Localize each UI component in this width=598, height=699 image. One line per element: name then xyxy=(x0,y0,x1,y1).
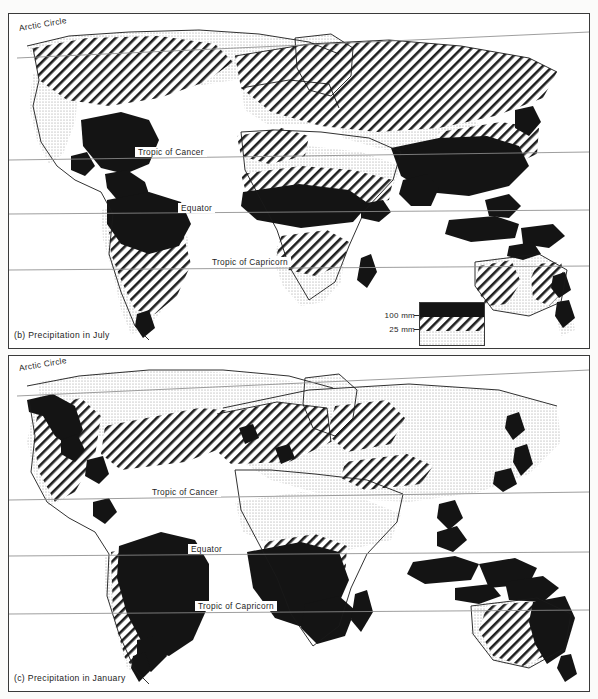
lat-label-tropic-of-capricorn-july: Tropic of Capricorn xyxy=(209,257,291,267)
stipple-pattern-icon xyxy=(420,331,484,345)
caption-january: (c) Precipitation in January xyxy=(14,673,126,683)
legend-swatch-solid xyxy=(420,303,484,317)
legend-label-25mm: 25 mm xyxy=(389,325,415,334)
map-canvas-january xyxy=(9,356,589,691)
map-panel-january: Arctic Circle Tropic of Cancer Equator T… xyxy=(8,355,590,692)
map-panel-july: Arctic Circle Tropic of Cancer Equator T… xyxy=(8,13,590,349)
lat-label-equator-july: Equator xyxy=(178,203,215,213)
legend-labels: 100 mm 25 mm xyxy=(327,302,419,344)
hatch-pattern-icon xyxy=(420,317,484,331)
legend: 100 mm 25 mm xyxy=(419,302,483,344)
map-canvas-july xyxy=(9,14,589,348)
caption-july: (b) Precipitation in July xyxy=(14,330,110,340)
precipitation-figure: Arctic Circle Tropic of Cancer Equator T… xyxy=(0,0,598,699)
legend-swatch-hatch xyxy=(420,317,484,331)
legend-swatch-column xyxy=(419,302,485,346)
lat-label-tropic-of-cancer-january: Tropic of Cancer xyxy=(149,487,221,497)
world-map-january xyxy=(9,356,589,691)
lat-label-equator-january: Equator xyxy=(188,544,225,554)
legend-label-100mm: 100 mm xyxy=(385,311,415,320)
legend-swatch-stipple xyxy=(420,331,484,345)
lat-label-tropic-of-cancer-july: Tropic of Cancer xyxy=(135,147,207,157)
lat-label-tropic-of-capricorn-january: Tropic of Capricorn xyxy=(195,601,277,611)
world-map-july xyxy=(9,14,589,348)
